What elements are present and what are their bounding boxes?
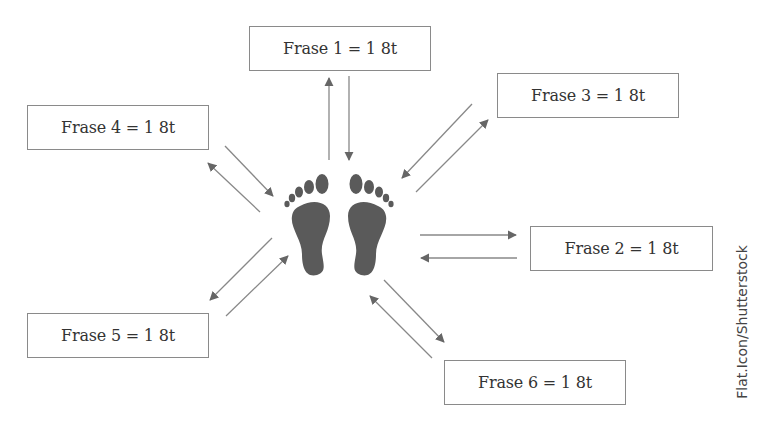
- phrase-label-4: Frase 4 = 1 8t: [61, 118, 175, 137]
- left-footprint-icon: [284, 174, 330, 275]
- phrase-box-5: Frase 5 = 1 8t: [27, 313, 209, 358]
- arrows-frase-2: [420, 235, 517, 258]
- arrows-frase-3: [402, 104, 488, 192]
- phrase-label-2: Frase 2 = 1 8t: [565, 239, 679, 258]
- phrase-box-4: Frase 4 = 1 8t: [27, 105, 209, 150]
- arrows-frase-6: [370, 280, 444, 358]
- phrase-box-6: Frase 6 = 1 8t: [444, 360, 626, 405]
- arrows-frase-1: [329, 76, 349, 160]
- phrase-label-6: Frase 6 = 1 8t: [478, 373, 592, 392]
- right-footprint-icon: [348, 174, 394, 275]
- phrase-label-1: Frase 1 = 1 8t: [283, 39, 397, 58]
- phrase-box-2: Frase 2 = 1 8t: [530, 226, 713, 271]
- phrase-box-1: Frase 1 = 1 8t: [249, 26, 431, 71]
- arrows-frase-4: [208, 146, 273, 212]
- image-credit: Flat.Icon/Shutterstock: [734, 245, 750, 399]
- phrase-label-3: Frase 3 = 1 8t: [531, 86, 645, 105]
- phrase-box-3: Frase 3 = 1 8t: [497, 73, 679, 118]
- phrase-label-5: Frase 5 = 1 8t: [61, 326, 175, 345]
- arrows-frase-5: [210, 238, 288, 316]
